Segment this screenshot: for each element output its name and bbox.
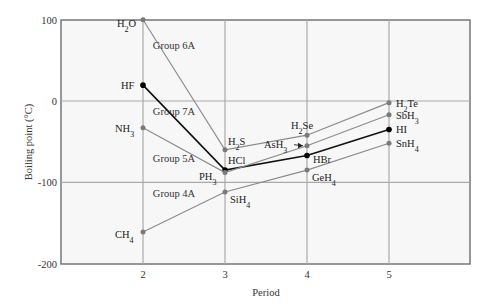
data-point — [141, 125, 146, 130]
data-point — [141, 17, 146, 22]
group-label: Group 5A — [153, 153, 196, 164]
data-point — [305, 143, 310, 148]
y-tick-label: -100 — [38, 177, 57, 188]
y-tick-label: 100 — [41, 15, 57, 26]
data-point — [387, 112, 392, 117]
x-tick-label: 2 — [140, 269, 145, 280]
data-point — [386, 127, 392, 133]
point-label: HBr — [313, 154, 332, 165]
group-label: Group 6A — [153, 40, 196, 51]
data-point — [140, 82, 146, 88]
x-tick-label: 3 — [222, 269, 227, 280]
point-label: HCl — [228, 155, 246, 166]
boiling-point-chart: H2OH2SH2SeH2TeHFHClHBrHINH3PH3AsH3SbH3CH… — [0, 0, 488, 304]
y-axis-title: Boiling point (°C) — [23, 103, 35, 180]
y-tick-label: 0 — [52, 96, 57, 107]
x-axis-title: Period — [252, 287, 280, 298]
point-label: HI — [396, 124, 408, 135]
data-point — [387, 141, 392, 146]
x-tick-label: 5 — [386, 269, 391, 280]
data-point — [387, 100, 392, 105]
data-point — [305, 133, 310, 138]
group-label: Group 4A — [153, 188, 196, 199]
data-point — [223, 170, 228, 175]
group-label: Group 7A — [153, 106, 196, 117]
data-point — [141, 229, 146, 234]
data-point — [305, 168, 310, 173]
point-label: HF — [121, 80, 135, 91]
data-point — [223, 147, 228, 152]
y-tick-label: -200 — [38, 259, 57, 270]
data-point — [304, 153, 310, 159]
data-point — [223, 190, 228, 195]
x-tick-label: 4 — [304, 269, 310, 280]
